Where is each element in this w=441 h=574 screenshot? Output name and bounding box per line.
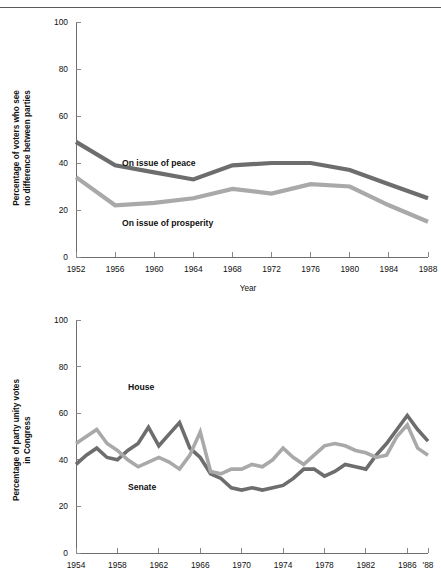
bottom-axes — [76, 320, 428, 553]
bottom-y-tick-labels: 020406080100 — [54, 315, 68, 558]
y-tick-label: 100 — [54, 17, 68, 27]
series-label-senate: Senate — [128, 482, 156, 492]
y-tick-label: 100 — [54, 315, 68, 325]
x-tick-label: 1968 — [223, 264, 242, 274]
x-tick-label: 1970 — [232, 560, 251, 570]
data-line-house — [76, 416, 428, 491]
x-tick-label: '88 — [423, 560, 434, 570]
y-tick-label: 40 — [59, 158, 69, 168]
bottom-x-tick-labels: 195419581962196619701974197819821986'88 — [67, 560, 434, 570]
x-tick-label: 1986 — [398, 560, 417, 570]
y-tick-label: 0 — [63, 252, 68, 262]
y-tick-label: 80 — [59, 362, 69, 372]
chart-panel-party-unity: Percentage of party unity votes in Congr… — [0, 300, 441, 574]
chart-panel-voters-no-difference: Percentage of voters who see no differen… — [0, 8, 441, 293]
bottom-data-lines — [76, 416, 428, 491]
y-tick-label: 60 — [59, 111, 69, 121]
bottom-ylabel-line1: Percentage of party unity votes — [12, 379, 21, 501]
series-label-peace: On issue of peace — [122, 158, 196, 168]
x-tick-label: 1964 — [184, 264, 203, 274]
bottom-y-axis-label: Percentage of party unity votes in Congr… — [12, 379, 32, 501]
top-y-tick-labels: 020406080100 — [54, 17, 68, 262]
top-ylabel-line1: Percentage of voters who see — [12, 90, 21, 206]
x-tick-label: 1984 — [380, 264, 399, 274]
x-tick-label: 1988 — [419, 264, 438, 274]
top-data-lines — [76, 142, 428, 222]
x-tick-label: 1980 — [340, 264, 359, 274]
top-x-tick-labels: 1952195619601964196819721976198019841988 — [67, 264, 438, 274]
y-tick-label: 60 — [59, 408, 69, 418]
y-tick-label: 40 — [59, 455, 69, 465]
x-tick-label: 1958 — [108, 560, 127, 570]
bottom-ylabel-line2: in Congress — [23, 416, 32, 464]
y-tick-label: 20 — [59, 205, 69, 215]
figure-page: Percentage of voters who see no differen… — [0, 0, 441, 574]
x-tick-label: 1982 — [357, 560, 376, 570]
voters-no-difference-chart: Percentage of voters who see no differen… — [0, 8, 441, 293]
x-tick-label: 1954 — [67, 560, 86, 570]
x-tick-label: 1974 — [274, 560, 293, 570]
y-tick-label: 80 — [59, 64, 69, 74]
x-tick-label: 1956 — [106, 264, 125, 274]
top-y-axis-label: Percentage of voters who see no differen… — [12, 90, 32, 206]
x-tick-label: 1978 — [315, 560, 334, 570]
x-tick-label: 1952 — [67, 264, 86, 274]
x-tick-label: 1972 — [262, 264, 281, 274]
top-ylabel-line2: no difference between parties — [23, 90, 32, 206]
series-label-prosperity: On issue of prosperity — [122, 218, 213, 228]
top-xlabel: Year — [240, 284, 257, 293]
series-label-house: House — [128, 382, 154, 392]
party-unity-chart: Percentage of party unity votes in Congr… — [0, 300, 441, 574]
data-line-on-issue-of-prosperity — [76, 177, 428, 222]
x-tick-label: 1962 — [150, 560, 169, 570]
y-tick-label: 20 — [59, 501, 69, 511]
x-tick-label: 1966 — [191, 560, 210, 570]
x-tick-label: 1960 — [145, 264, 164, 274]
x-tick-label: 1976 — [301, 264, 320, 274]
y-tick-label: 0 — [63, 548, 68, 558]
